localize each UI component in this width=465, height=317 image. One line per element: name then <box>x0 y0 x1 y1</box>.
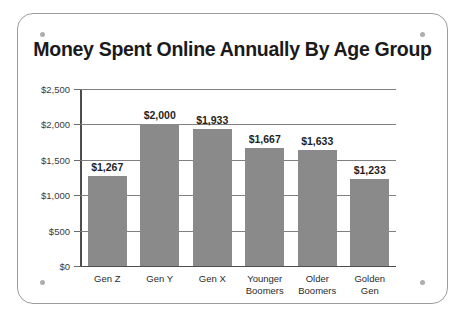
bar-group[interactable]: $1,267Gen Z <box>81 89 134 266</box>
bar-series: $1,267Gen Z$2,000Gen Y$1,933Gen X$1,667Y… <box>81 89 396 266</box>
y-axis-tick-label: $0 <box>59 261 70 272</box>
y-axis-tick <box>74 231 81 232</box>
chart-panel: Money Spent Online Annually By Age Group… <box>17 13 448 304</box>
y-axis-tick <box>74 195 81 196</box>
bar-group[interactable]: $1,667YoungerBoomers <box>239 89 292 266</box>
bar[interactable] <box>245 148 284 266</box>
screw-top-left-icon <box>40 32 45 37</box>
y-axis-tick-label: $1,000 <box>41 190 70 201</box>
bar-group[interactable]: $2,000Gen Y <box>134 89 187 266</box>
screw-bottom-left-icon <box>40 280 45 285</box>
screw-bottom-right-icon <box>420 280 425 285</box>
bar[interactable] <box>298 150 337 266</box>
y-axis-tick <box>74 89 81 90</box>
bar[interactable] <box>193 129 232 266</box>
y-axis-tick-label: $2,000 <box>41 119 70 130</box>
y-axis-tick <box>74 124 81 125</box>
plot-area: $0$500$1,000$1,500$2,000$2,500 $1,267Gen… <box>81 89 396 266</box>
y-axis-tick-label: $2,500 <box>41 84 70 95</box>
y-axis-tick <box>74 160 81 161</box>
bar-group[interactable]: $1,233GoldenGen <box>344 89 397 266</box>
chart-title: Money Spent Online Annually By Age Group <box>18 38 447 61</box>
y-axis-tick-label: $1,500 <box>41 154 70 165</box>
bar-value-label: $1,633 <box>291 135 344 147</box>
bar-group[interactable]: $1,633OlderBoomers <box>291 89 344 266</box>
bar-group[interactable]: $1,933Gen X <box>186 89 239 266</box>
bar-value-label: $2,000 <box>134 109 187 121</box>
bar-value-label: $1,667 <box>239 133 292 145</box>
screw-top-right-icon <box>420 32 425 37</box>
x-axis-category-label: GoldenGen <box>337 273 402 296</box>
bar-value-label: $1,933 <box>186 114 239 126</box>
bar-value-label: $1,267 <box>81 161 134 173</box>
bar[interactable] <box>350 179 389 266</box>
bar-value-label: $1,233 <box>344 164 397 176</box>
bar[interactable] <box>140 124 179 266</box>
bar[interactable] <box>88 176 127 266</box>
y-axis-tick <box>74 266 81 267</box>
y-axis-tick-label: $500 <box>49 225 70 236</box>
